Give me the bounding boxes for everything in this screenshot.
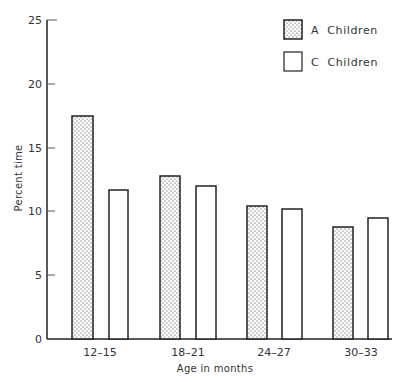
y-tick-15: 15 bbox=[28, 142, 42, 155]
bar-a-30-33 bbox=[333, 227, 353, 339]
x-tick-18-21: 18–21 bbox=[171, 346, 205, 359]
x-tick-24-27: 24–27 bbox=[257, 346, 291, 359]
y-tick-10: 10 bbox=[28, 205, 42, 218]
legend-label-c: C Children bbox=[311, 56, 378, 69]
bar-a-12-15 bbox=[72, 116, 93, 339]
legend-swatch-a bbox=[284, 20, 302, 39]
y-axis-label: Percent time bbox=[13, 145, 24, 212]
y-tick-25: 25 bbox=[28, 14, 42, 27]
x-tick-30-33: 30–33 bbox=[344, 346, 378, 359]
legend-swatch-c bbox=[284, 52, 302, 71]
bar-c-24-27 bbox=[282, 209, 302, 339]
x-axis: 12–15 18–21 24–27 30–33 Age in months bbox=[47, 339, 392, 374]
bar-c-18-21 bbox=[196, 186, 216, 339]
legend-label-a: A Children bbox=[311, 24, 378, 37]
bar-a-24-27 bbox=[247, 206, 267, 339]
y-tick-20: 20 bbox=[28, 78, 42, 91]
bar-c-12-15 bbox=[109, 190, 128, 339]
x-axis-label: Age in months bbox=[177, 363, 253, 374]
bar-chart: 0 5 10 15 20 25 Percent time 12–15 18–21… bbox=[0, 0, 401, 382]
y-axis: 0 5 10 15 20 25 Percent time bbox=[13, 14, 57, 346]
bar-a-18-21 bbox=[160, 176, 180, 339]
y-tick-5: 5 bbox=[35, 269, 42, 282]
legend: A Children C Children bbox=[284, 20, 378, 71]
x-tick-12-15: 12–15 bbox=[83, 346, 117, 359]
bar-c-30-33 bbox=[368, 218, 388, 339]
y-tick-0: 0 bbox=[35, 333, 42, 346]
